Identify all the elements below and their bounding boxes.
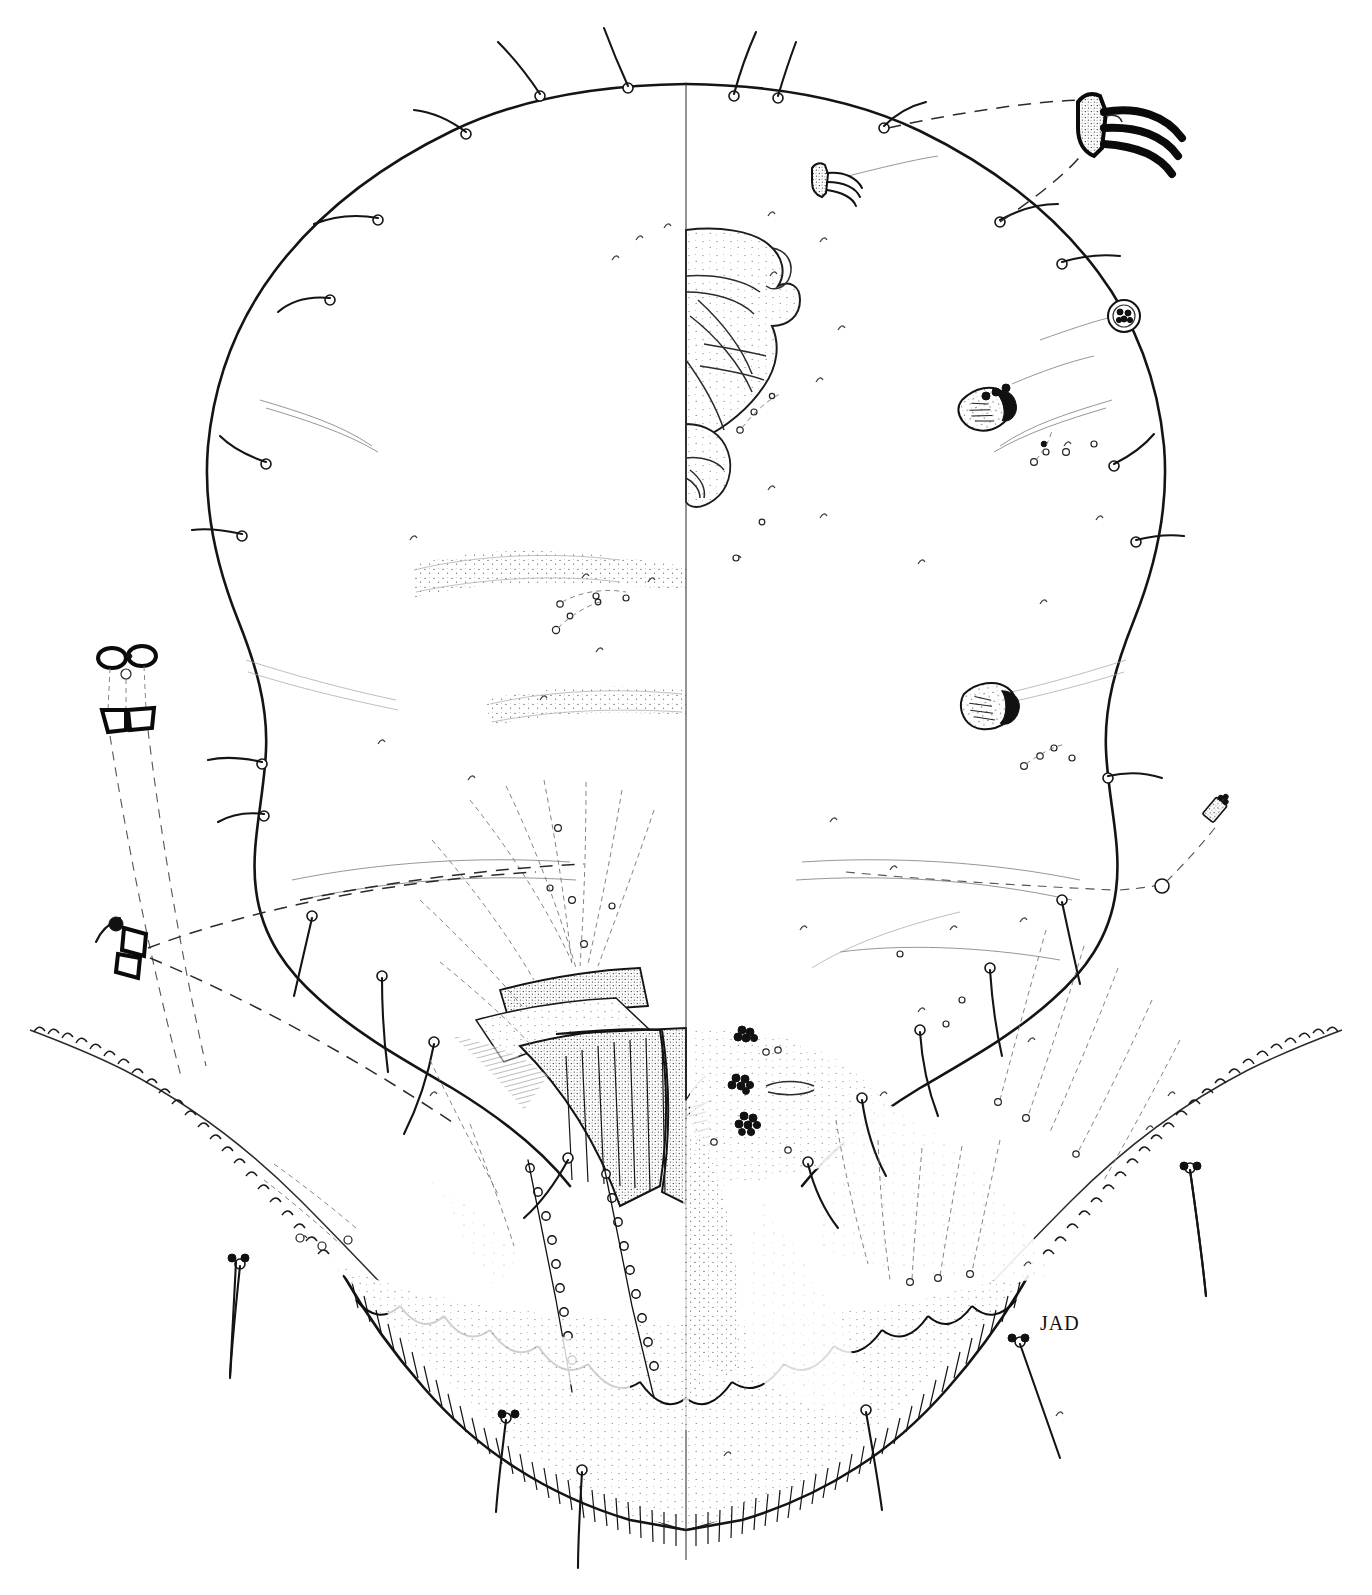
midline-sclerotised-band xyxy=(683,1100,689,1430)
scale-insect-habitus-drawing: JAD xyxy=(0,0,1372,1595)
artist-signature: JAD xyxy=(1040,1312,1080,1334)
illustration-plate: JAD xyxy=(0,0,1372,1595)
vulva xyxy=(756,1070,824,1102)
